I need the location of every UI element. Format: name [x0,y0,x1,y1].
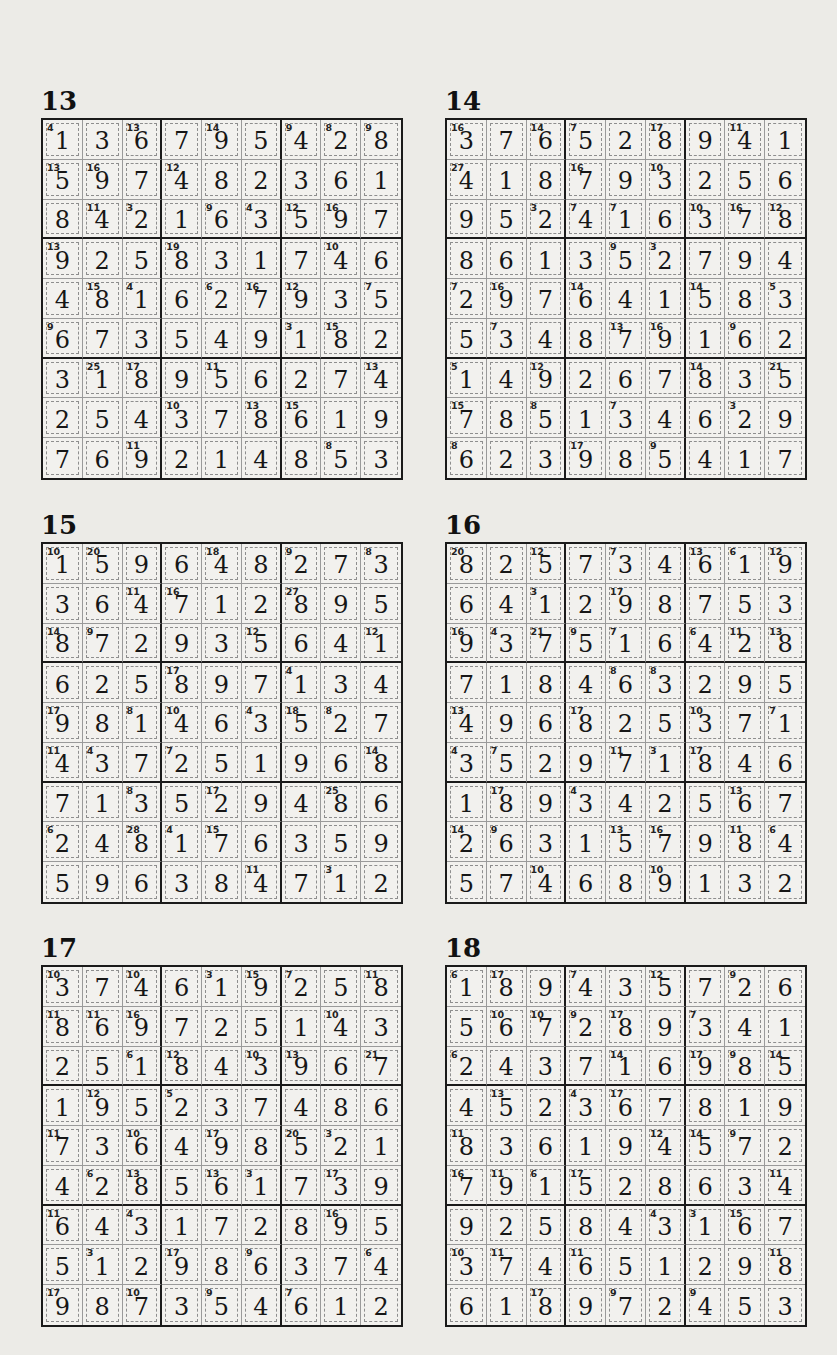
cell-digit: 1 [95,368,110,392]
grid-cell: 106 [487,1007,527,1047]
cell-digit: 2 [55,408,70,432]
grid-cell: 4 [162,1126,202,1166]
grid-cell: 9 [162,624,202,664]
cage-sum: 8 [325,706,332,716]
grid-cell: 64 [686,624,726,664]
grid-cell: 2 [646,1285,686,1325]
grid-cell: 118 [725,822,765,862]
cell-digit: 7 [174,593,189,617]
cell-digit: 5 [737,1295,752,1319]
cell-digit: 6 [737,792,752,816]
grid-cell: 137 [606,319,646,359]
grid-cell: 3 [123,319,163,359]
grid-cell: 6 [83,584,123,624]
grid-cell: 178 [646,120,686,160]
grid-cell: 71 [606,624,646,664]
cell-digit: 1 [293,673,308,697]
cell-digit: 5 [95,553,110,577]
grid-cell: 169 [646,319,686,359]
cell-digit: 8 [499,792,514,816]
cell-digit: 8 [737,832,752,856]
cell-digit: 2 [214,1016,229,1040]
cage-sum: 3 [127,203,134,213]
grid-cell: 139 [282,1047,322,1087]
cell-digit: 7 [134,752,149,776]
grid-cell: 125 [242,624,282,664]
grid-cell: 97 [725,1126,765,1166]
grid-cell: 135 [43,160,83,200]
grid-cell: 73 [686,1007,726,1047]
grid-cell: 1 [447,783,487,823]
cell-digit: 6 [55,673,70,697]
grid-cell: 7 [361,703,401,743]
cell-digit: 6 [253,832,268,856]
grid-cell: 134 [361,359,401,399]
cage-sum: 4 [47,123,54,133]
grid-cell: 2 [83,239,123,279]
cage-sum: 4 [451,746,458,756]
grid-cell: 62 [83,1166,123,1206]
grid-cell: 1 [202,438,242,478]
grid-cell: 2 [202,1007,242,1047]
grid-cell: 7 [282,862,322,902]
cage-sum: 6 [451,1050,458,1060]
grid-cell: 9 [447,200,487,240]
cell-digit: 4 [253,448,268,472]
grid-cell: 185 [282,703,322,743]
grid-cell: 7 [447,663,487,703]
cell-digit: 4 [55,1175,70,1199]
cage-sum: 6 [206,282,213,292]
grid-cell: 9 [447,1206,487,1246]
grid-cell: 3 [202,239,242,279]
cell-digit: 2 [777,1135,792,1159]
cell-digit: 3 [697,712,712,736]
grid-cell: 179 [162,1245,202,1285]
cell-digit: 9 [293,752,308,776]
cell-digit: 8 [373,976,388,1000]
cell-digit: 5 [134,1096,149,1120]
cell-digit: 3 [333,673,348,697]
cell-digit: 1 [55,1096,70,1120]
grid-cell: 8 [646,584,686,624]
grid-cell: 9 [765,1086,805,1126]
cell-digit: 2 [214,792,229,816]
cell-digit: 3 [134,1215,149,1239]
cell-digit: 5 [499,1096,514,1120]
cell-digit: 7 [373,712,388,736]
cell-digit: 3 [214,249,229,273]
grid-cell: 8 [321,1086,361,1126]
grid-cell: 73 [487,319,527,359]
cell-digit: 3 [499,632,514,656]
cell-digit: 6 [134,1135,149,1159]
cage-sum: 5 [451,362,458,372]
grid-cell: 4 [725,743,765,783]
cell-digit: 1 [499,673,514,697]
cell-digit: 6 [499,1016,514,1040]
cell-digit: 1 [777,129,792,153]
cell-digit: 6 [373,249,388,273]
grid-cell: 1 [43,1086,83,1126]
cell-digit: 5 [333,976,348,1000]
grid-cell: 3 [725,359,765,399]
cell-digit: 9 [95,872,110,896]
cell-digit: 9 [293,288,308,312]
grid-cell: 124 [646,1126,686,1166]
grid-cell: 1 [725,1086,765,1126]
grid-cell: 217 [361,1047,401,1087]
cell-digit: 6 [499,249,514,273]
grid-cell: 83 [123,783,163,823]
cell-digit: 9 [134,553,149,577]
cell-digit: 9 [697,832,712,856]
grid-cell: 167 [566,160,606,200]
cell-digit: 5 [697,1135,712,1159]
cage-sum: 8 [127,706,134,716]
grid-cell: 3 [282,160,322,200]
grid-cell: 96 [43,319,83,359]
grid-cell: 31 [202,967,242,1007]
grid-cell: 116 [566,1245,606,1285]
cell-digit: 3 [459,129,474,153]
grid-cell: 5 [321,822,361,862]
grid-cell: 8 [242,544,282,584]
cell-digit: 7 [618,1295,633,1319]
cage-sum: 4 [286,666,293,676]
